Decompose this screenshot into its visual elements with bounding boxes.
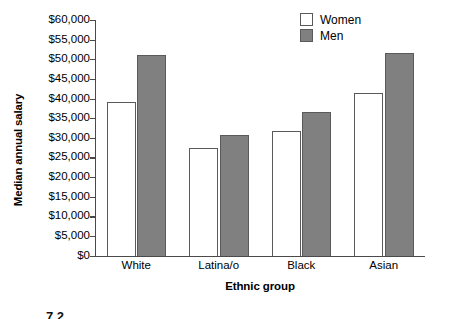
- legend-item-women: Women: [300, 13, 361, 26]
- x-axis-tick-label: White: [122, 260, 151, 272]
- y-axis-tick-label: $20,000: [28, 171, 90, 183]
- legend-swatch-women: [300, 13, 313, 26]
- y-axis-tick-label: $30,000: [28, 132, 90, 144]
- y-axis-tick-label: $50,000: [28, 54, 90, 66]
- y-axis-tick-label: $60,000: [28, 14, 90, 26]
- y-axis-tick-label: $35,000: [28, 112, 90, 124]
- y-axis-tick-label: $5,000: [28, 230, 90, 242]
- bar-latina-o-women: [189, 148, 218, 255]
- x-axis-tick-label: Black: [287, 260, 315, 272]
- y-axis-tick-labels: $0$5,000$10,000$15,000$20,000$25,000$30,…: [28, 13, 90, 257]
- bar-white-women: [107, 102, 136, 255]
- y-axis-tick-label: $45,000: [28, 73, 90, 85]
- y-axis-tick-label: $10,000: [28, 211, 90, 223]
- y-axis-title: Median annual salary: [6, 50, 30, 250]
- bar-white-men: [137, 55, 166, 255]
- bar-black-men: [302, 112, 331, 256]
- chart-legend: WomenMen: [300, 13, 361, 45]
- legend-item-men: Men: [300, 29, 361, 42]
- bar-asian-women: [354, 93, 383, 256]
- x-axis-title: Ethnic group: [95, 280, 425, 292]
- bar-asian-men: [385, 53, 414, 256]
- y-axis-tick-label: $0: [28, 250, 90, 262]
- plot-area: [95, 20, 425, 257]
- y-axis-tick-label: $25,000: [28, 152, 90, 164]
- bars-layer: [95, 20, 425, 257]
- y-axis-tick-label: $55,000: [28, 34, 90, 46]
- y-axis-title-text: Median annual salary: [12, 94, 24, 206]
- legend-swatch-men: [300, 29, 313, 42]
- legend-label: Women: [320, 14, 361, 26]
- figure-caption: 7.2: [46, 309, 64, 319]
- y-axis-tick-label: $15,000: [28, 191, 90, 203]
- x-axis-tick-labels: WhiteLatina/oBlackAsian: [95, 260, 425, 278]
- y-axis-tick-label: $40,000: [28, 93, 90, 105]
- legend-label: Men: [320, 30, 343, 42]
- bar-latina-o-men: [220, 135, 249, 256]
- x-axis-tick-label: Latina/o: [198, 260, 239, 272]
- bar-black-women: [272, 131, 301, 255]
- x-axis-tick-label: Asian: [369, 260, 398, 272]
